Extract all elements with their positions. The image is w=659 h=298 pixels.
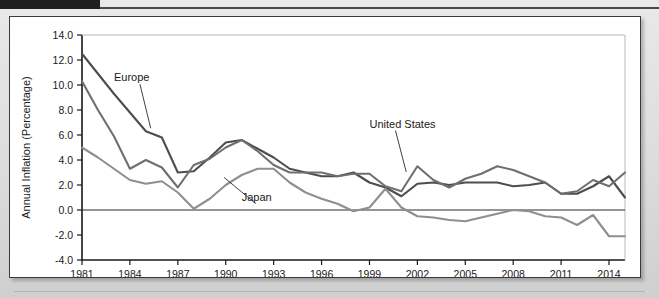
y-tick-label: 0.0: [58, 204, 73, 216]
plot-area: [82, 35, 625, 260]
y-tick-label: 8.0: [58, 104, 73, 116]
page-bottom-divider: [14, 291, 645, 292]
y-tick-label: 2.0: [58, 179, 73, 191]
x-tick-label: 2005: [454, 268, 478, 277]
y-tick-label: 6.0: [58, 129, 73, 141]
header-swatch: [0, 0, 100, 9]
x-tick-label: 2014: [597, 268, 621, 277]
header-divider: [100, 7, 659, 9]
y-tick-label: -4.0: [55, 254, 73, 266]
x-tick-label: 1981: [70, 268, 94, 277]
y-tick-label: 12.0: [53, 54, 74, 66]
y-tick-label: 4.0: [58, 154, 73, 166]
x-tick-label: 1999: [358, 268, 382, 277]
inflation-line-chart: 14.012.010.08.06.04.02.00.0-2.0-4.019811…: [10, 17, 640, 277]
annotation-label-europe: Europe: [114, 71, 149, 83]
x-tick-label: 1993: [262, 268, 286, 277]
annotation-label-united-states: United States: [369, 118, 436, 130]
annotation-label-japan: Japan: [242, 191, 272, 203]
y-tick-label: 10.0: [53, 79, 74, 91]
y-axis-title: Annual Inflation (Percentage): [20, 76, 32, 218]
y-tick-label: -2.0: [55, 229, 73, 241]
x-tick-label: 1984: [118, 268, 142, 277]
figure-root: 14.012.010.08.06.04.02.00.0-2.0-4.019811…: [0, 0, 659, 298]
x-tick-label: 1987: [166, 268, 190, 277]
x-tick-label: 1990: [214, 268, 238, 277]
y-tick-label: 14.0: [53, 29, 74, 41]
x-tick-label: 2011: [550, 268, 573, 277]
x-tick-label: 1996: [310, 268, 334, 277]
x-tick-label: 2008: [502, 268, 526, 277]
x-tick-label: 2002: [406, 268, 430, 277]
chart-card: 14.012.010.08.06.04.02.00.0-2.0-4.019811…: [9, 16, 641, 278]
